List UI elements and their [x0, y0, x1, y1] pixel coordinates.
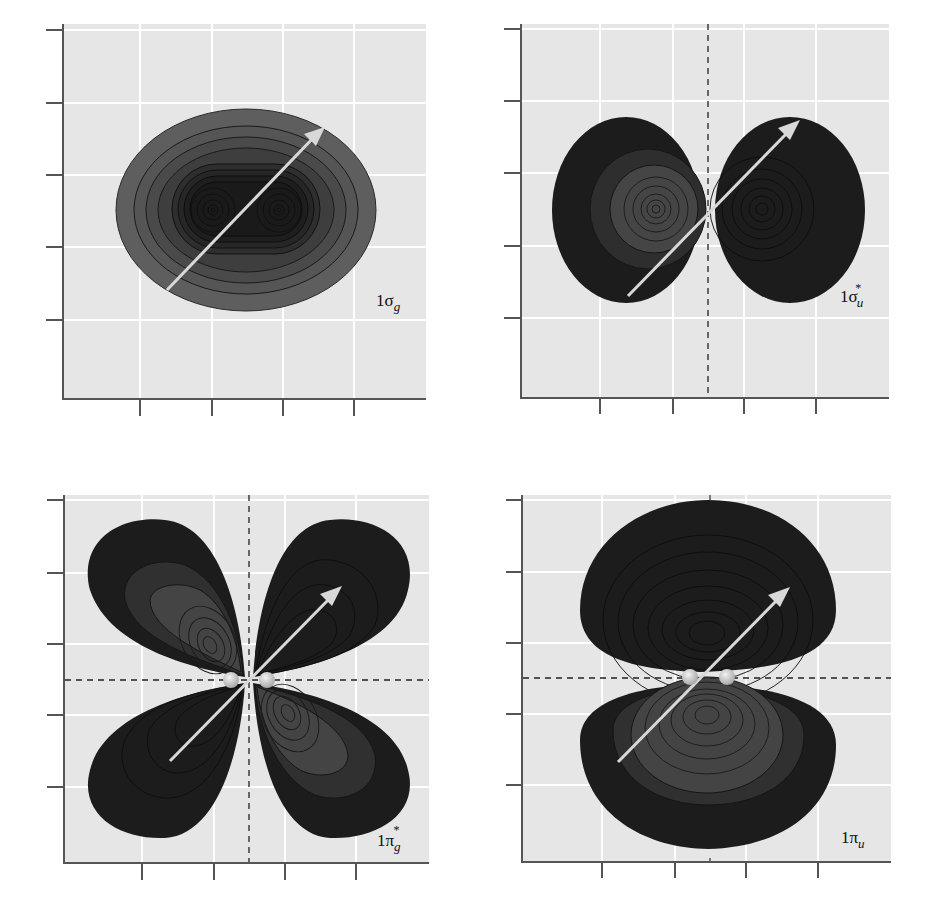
sigma-g-density: [116, 109, 376, 311]
atom-left: [223, 672, 239, 688]
atom-left: [682, 669, 698, 685]
atom-right: [259, 672, 275, 688]
panel-pi-g-star: 1πg*: [47, 495, 429, 880]
panel-pi-u: 1πu: [506, 495, 891, 878]
panel-sigma-u-star: 1σu*: [504, 24, 889, 414]
atom-right: [719, 669, 735, 685]
orbital-figure: 1σg: [0, 0, 937, 915]
panel-sigma-g: 1σg: [46, 24, 426, 416]
